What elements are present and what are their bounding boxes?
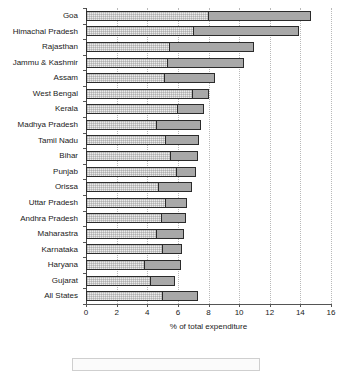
bar-segment-b — [144, 261, 180, 269]
x-tick-label: 0 — [84, 308, 88, 317]
bar-segment-a — [87, 292, 162, 300]
y-axis-category-labels: GoaHimachal PradeshRajasthanJammu & Kash… — [0, 8, 82, 304]
y-tick-mark — [83, 148, 86, 149]
x-tick-mark — [300, 304, 301, 307]
stacked-bar — [86, 120, 201, 130]
stacked-bar — [86, 89, 209, 99]
bar-segment-b — [161, 214, 185, 222]
stacked-bar — [86, 260, 181, 270]
bar-segment-b — [167, 59, 243, 67]
y-tick-mark — [83, 257, 86, 258]
bar-segment-b — [162, 245, 182, 253]
horizontal-stacked-bar-chart: GoaHimachal PradeshRajasthanJammu & Kash… — [0, 0, 338, 371]
bar-segment-a — [87, 183, 158, 191]
bar-segment-a — [87, 74, 164, 82]
bar-segment-b — [162, 292, 197, 300]
y-tick-mark — [83, 86, 86, 87]
bar-row — [86, 273, 331, 289]
bar-segment-b — [156, 230, 183, 238]
bar-row — [86, 211, 331, 227]
bar-row — [86, 179, 331, 195]
plot-area — [86, 8, 331, 304]
bar-row — [86, 101, 331, 117]
x-tick-mark — [86, 304, 87, 307]
footer-box — [72, 358, 260, 371]
bar-row — [86, 164, 331, 180]
stacked-bar — [86, 151, 198, 161]
bar-segment-b — [169, 43, 254, 51]
bar-row — [86, 70, 331, 86]
y-tick-mark — [83, 288, 86, 289]
x-tick-mark — [239, 304, 240, 307]
bar-segment-a — [87, 168, 176, 176]
y-tick-mark — [83, 39, 86, 40]
bar-segment-a — [87, 90, 192, 98]
bar-row — [86, 86, 331, 102]
bar-segment-a — [87, 230, 156, 238]
bar-segment-a — [87, 105, 177, 113]
bar-segment-a — [87, 43, 169, 51]
bar-row — [86, 242, 331, 258]
stacked-bar — [86, 229, 184, 239]
y-tick-mark — [83, 242, 86, 243]
bar-row — [86, 257, 331, 273]
y-tick-mark — [83, 8, 86, 9]
bar-segment-a — [87, 214, 161, 222]
y-axis-label: Kerala — [0, 101, 82, 117]
bar-segment-a — [87, 59, 167, 67]
x-tick-label: 8 — [206, 308, 210, 317]
x-tick-label: 12 — [265, 308, 274, 317]
y-axis-label: Madhya Pradesh — [0, 117, 82, 133]
bar-segment-b — [164, 74, 214, 82]
x-tick-mark — [117, 304, 118, 307]
x-tick-label: 10 — [235, 308, 244, 317]
y-axis-label: Orissa — [0, 179, 82, 195]
y-axis-label: Goa — [0, 8, 82, 24]
bar-segment-b — [193, 27, 298, 35]
bar-segment-a — [87, 152, 170, 160]
stacked-bar — [86, 26, 299, 36]
y-tick-mark — [83, 70, 86, 71]
bar-segment-a — [87, 121, 156, 129]
stacked-bar — [86, 198, 187, 208]
y-tick-mark — [83, 101, 86, 102]
y-axis-label: Gujarat — [0, 273, 82, 289]
x-tick-label: 2 — [114, 308, 118, 317]
x-tick-mark — [147, 304, 148, 307]
y-tick-mark — [83, 133, 86, 134]
y-axis-label: Himachal Pradesh — [0, 24, 82, 40]
bar-series-container — [86, 8, 331, 304]
bar-row — [86, 39, 331, 55]
y-axis-label: Karnataka — [0, 242, 82, 258]
bar-segment-b — [176, 168, 196, 176]
bar-segment-a — [87, 245, 162, 253]
stacked-bar — [86, 11, 311, 21]
bar-row — [86, 148, 331, 164]
x-tick-mark — [331, 304, 332, 307]
stacked-bar — [86, 167, 196, 177]
y-axis-label: All States — [0, 288, 82, 304]
x-axis-ticks: 0246810121416 — [86, 304, 331, 320]
x-tick-mark — [178, 304, 179, 307]
stacked-bar — [86, 244, 182, 254]
y-axis-label: Assam — [0, 70, 82, 86]
bar-segment-a — [87, 12, 208, 20]
x-tick-label: 4 — [145, 308, 149, 317]
y-tick-mark — [83, 226, 86, 227]
bar-segment-a — [87, 136, 165, 144]
bar-segment-b — [165, 136, 198, 144]
bar-row — [86, 226, 331, 242]
bar-segment-a — [87, 199, 165, 207]
stacked-bar — [86, 213, 186, 223]
bar-row — [86, 55, 331, 71]
x-tick-label: 14 — [296, 308, 305, 317]
stacked-bar — [86, 276, 175, 286]
y-tick-mark — [83, 273, 86, 274]
bar-segment-b — [192, 90, 207, 98]
bar-segment-a — [87, 27, 193, 35]
stacked-bar — [86, 291, 198, 301]
y-tick-mark — [83, 195, 86, 196]
bar-row — [86, 117, 331, 133]
y-axis-label: Maharastra — [0, 226, 82, 242]
bar-row — [86, 288, 331, 304]
